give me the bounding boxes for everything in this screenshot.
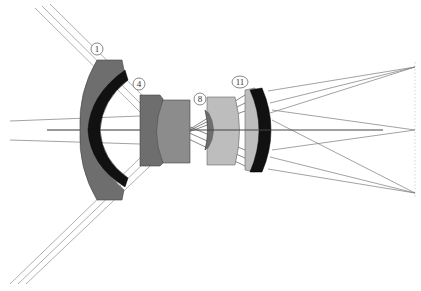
label-1-text: 1 (95, 44, 100, 54)
label-8: 8 (194, 93, 206, 105)
optical-layout-svg: 1 4 8 11 (0, 0, 421, 291)
ray-bundle-outgoing (190, 67, 415, 193)
label-11: 11 (232, 76, 248, 88)
label-4-text: 4 (137, 79, 142, 89)
label-4: 4 (133, 78, 145, 90)
ray-bundle-axial-in (10, 116, 140, 144)
lens-diagram: 1 4 8 11 (0, 0, 421, 291)
ray-bundle-lower-left (10, 158, 150, 284)
label-8-text: 8 (198, 94, 203, 104)
label-11-text: 11 (236, 77, 245, 87)
label-1: 1 (91, 43, 103, 55)
lens-element-5 (157, 100, 191, 163)
